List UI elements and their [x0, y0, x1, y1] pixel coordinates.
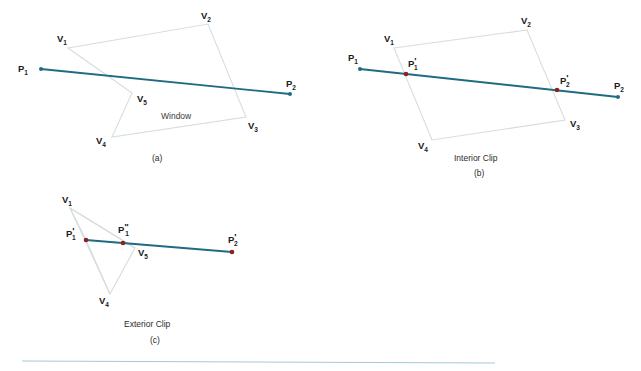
- panel-b-caption: (b): [474, 168, 485, 178]
- panel-a-label-v4: V4: [96, 135, 106, 148]
- panel-b-label-p2: P2: [614, 80, 624, 93]
- panel-a-line-segment: [41, 69, 290, 94]
- panel-c-label-p1-doubleprime: P"1: [118, 221, 129, 237]
- panel-b-window-polygon: [394, 30, 565, 140]
- panel-a-label-v5: V5: [137, 93, 147, 106]
- panel-c-label-v1: V1: [62, 194, 72, 207]
- figure-page: V1 V2 V3 V4 V5 P1 P2 Window (a): [0, 0, 641, 371]
- line-clipping-figure: V1 V2 V3 V4 V5 P1 P2 Window (a): [0, 0, 641, 371]
- panel-b-label-v1: V1: [384, 33, 394, 46]
- panel-b-title: Interior Clip: [454, 153, 498, 163]
- panel-b-clip-point-p2-prime-dot: [555, 88, 560, 93]
- panel-a-label-v2: V2: [201, 10, 211, 23]
- panel-b-clip-point-p1-prime-dot: [404, 72, 409, 77]
- panel-b-endpoint-p1-dot: [358, 67, 362, 71]
- panel-c-clip-point-p2-prime-dot: [230, 250, 235, 255]
- panel-c-line-segment: [86, 240, 232, 252]
- panel-b-label-v4: V4: [418, 140, 428, 153]
- panel-a-caption: (a): [152, 153, 163, 163]
- panel-b-label-v2: V2: [521, 15, 531, 28]
- panel-c-title: Exterior Clip: [124, 319, 171, 329]
- panel-a-endpoint-p1-dot: [39, 67, 43, 71]
- panel-b-label-v3: V3: [570, 118, 580, 131]
- panel-a-endpoint-p2-dot: [288, 92, 292, 96]
- panel-c-clip-point-p1-doubleprime-dot: [121, 241, 126, 246]
- panel-b: V1 V2 V3 V4 P1 P2 P'1 P'2 Inte: [348, 15, 624, 178]
- panel-a: V1 V2 V3 V4 V5 P1 P2 Window (a): [18, 10, 296, 163]
- panel-c: V1 V4 V5 P'1 P"1 P'2 Exterior Clip (c): [62, 194, 238, 345]
- panel-c-caption: (c): [150, 335, 160, 345]
- panel-c-clip-point-p1-prime-dot: [84, 238, 89, 243]
- panel-a-label-v3: V3: [248, 120, 258, 133]
- panel-b-endpoint-p2-dot: [616, 95, 620, 99]
- panel-b-label-p1-prime: P'1: [408, 55, 418, 71]
- panel-b-line-segment: [360, 69, 618, 97]
- panel-c-label-v5: V5: [138, 247, 148, 260]
- panel-c-label-v4: V4: [99, 295, 109, 308]
- panel-c-label-p1-prime: P'1: [66, 225, 76, 241]
- panel-b-label-p2-prime: P'2: [560, 72, 570, 88]
- panel-c-label-p2-prime: P'2: [228, 231, 238, 247]
- bottom-horizontal-rule: [22, 361, 495, 363]
- panel-a-label-p1: P1: [18, 63, 28, 76]
- panel-a-window-label: Window: [161, 111, 192, 121]
- panel-a-label-v1: V1: [57, 33, 67, 46]
- panel-a-label-p2: P2: [286, 78, 296, 91]
- panel-b-label-p1: P1: [348, 52, 358, 65]
